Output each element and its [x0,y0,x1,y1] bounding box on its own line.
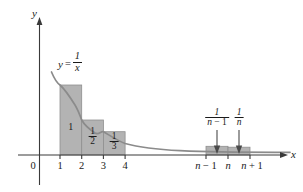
x-tick-label-n-plus-1-op: + 1 [246,160,262,171]
curve-equation-label: y = 1 x [58,53,82,75]
bar-label-2-numerator: 1 [88,127,97,137]
curve-equation-numerator: 1 [73,51,82,62]
callout-label-1-over-n-minus-1: 1 n − 1 [205,110,229,130]
curve-equation-equals: = [65,59,71,70]
y-axis-arrowhead [37,17,43,25]
bar-label-3: 1 3 [110,133,119,153]
bar-label-3-fraction: 1 3 [110,132,119,152]
callout-2-numerator: 1 [235,108,244,118]
bar-label-2: 1 2 [88,128,97,148]
bar-1 [60,85,82,155]
x-tick-label-0: 0 [30,161,35,172]
x-tick-label-4: 4 [122,161,127,172]
x-tick-label-1: 1 [57,161,62,172]
callout-1-denominator-op: − 1 [212,117,227,127]
bar-label-3-denominator: 3 [110,141,119,152]
bar-group-right [206,146,250,155]
callout-2-fraction: 1 n [235,108,244,128]
bar-label-2-fraction: 1 2 [88,127,97,147]
x-tick-label-n-var: n [225,160,230,171]
bar-label-2-denominator: 2 [88,136,97,147]
curve-equation-lhs: y [58,59,63,70]
callout-1-numerator: 1 [213,108,222,118]
bar-label-1: 1 [68,122,73,132]
x-tick-label-3: 3 [101,161,106,172]
x-tick-label-n-minus-1: n − 1 [195,161,217,172]
callout-2-denominator-var: n [237,117,242,127]
x-tick-marks [60,155,250,159]
x-tick-label-n-minus-1-op: − 1 [200,160,216,171]
curve-equation-denominator: x [73,62,82,74]
x-axis-label: x [291,149,296,160]
callout-1-denominator: n − 1 [205,117,229,128]
bar-label-3-numerator: 1 [110,132,119,142]
callout-1-fraction: 1 n − 1 [205,108,229,128]
x-tick-label-n-plus-1: n + 1 [241,161,263,172]
y-axis-label: y [32,8,37,19]
callout-2-denominator: n [235,117,244,128]
callout-label-1-over-n: 1 n [235,110,244,130]
curve-equation-fraction: 1 x [73,51,82,73]
x-tick-label-n: n [225,161,230,172]
x-tick-label-2: 2 [79,161,84,172]
figure-container: y x y = 1 x 0 1 2 3 4 n − 1 n n + 1 1 1 … [0,0,303,192]
